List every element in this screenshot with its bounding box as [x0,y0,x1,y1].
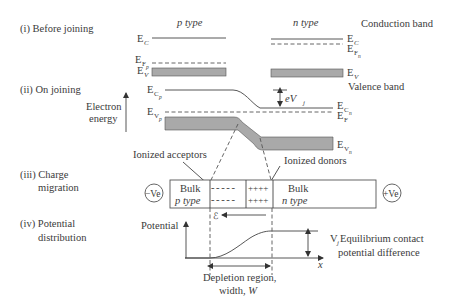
svg-text:E: E [147,106,153,117]
negative-terminal-label: −Ve [145,189,160,199]
vj-label: V j Equilibrium contact [330,233,424,247]
electric-field-symbol: ℰ [213,211,219,221]
p-ecp-label: E C p [147,84,162,100]
svg-text:E: E [135,54,141,65]
n-valence-band [271,69,343,77]
valence-band-label: Valence band [348,81,405,92]
svg-text:E: E [147,84,153,95]
acceptor-row-1: - - - - - [211,182,235,193]
n-type-header: n type [293,17,319,28]
depletion-label-line1: Depletion region, [203,272,276,283]
bulk-p-label-line2: p type [174,195,201,206]
electron-energy-label-line1: Electron [86,101,122,112]
step-label-potential-line2: distribution [38,232,87,243]
barrier-evj-label: eV j [285,93,305,107]
svg-text:eV: eV [285,93,298,104]
svg-text:F: F [344,116,348,124]
ionized-acceptors-label: Ionized acceptors [133,149,207,160]
svg-text:width, W: width, W [219,285,258,296]
n-ev-label: E V [347,67,359,81]
conduction-band-label: Conduction band [361,18,434,29]
svg-text:Equilibrium contact: Equilibrium contact [340,233,424,244]
svg-text:E: E [337,110,343,121]
electron-energy-label-line2: energy [89,113,118,124]
step-label-potential-line1: (iv) Potential [20,218,75,230]
x-axis-label: x [317,259,323,270]
potential-axis-label: Potential [141,220,178,231]
pn-junction-diagram: (i) Before joining (ii) On joining (iii)… [0,0,455,307]
svg-text:E: E [137,33,143,44]
svg-text:C: C [354,39,359,47]
step-label-on-joining: (ii) On joining [20,84,81,96]
depletion-label-line2: width, W [219,285,258,296]
conduction-band-bent [165,90,333,108]
acceptor-row-2: - - - - - [211,194,235,205]
svg-text:E: E [347,43,353,54]
svg-text:E: E [347,67,353,78]
svg-text:p: p [158,94,162,100]
positive-terminal-label: +Ve [383,189,398,199]
svg-text:V: V [144,71,149,79]
vj-label-line2: potential difference [338,247,420,258]
svg-text:n: n [349,110,352,116]
valence-band-bent [165,117,333,150]
donor-row-1: ++++ [248,183,268,193]
step-label-charge-migration-line2: migration [38,182,80,193]
p-type-header: p type [176,17,203,28]
svg-text:j: j [302,99,305,107]
svg-text:p: p [158,116,162,122]
n-evn-label: E V n [337,139,352,155]
step-label-charge-migration-line1: (iii) Charge [20,169,69,181]
p-valence-band [152,68,226,76]
p-evp-label: E V p [147,106,162,122]
step-label-before-joining: (i) Before joining [20,23,94,35]
potential-curve [185,231,318,258]
p-ec-label: E C [137,33,149,47]
svg-text:j: j [336,239,339,247]
bulk-n-label-line2: n type [282,195,308,206]
svg-text:n: n [349,149,352,155]
svg-text:p: p [145,64,149,70]
svg-text:C: C [144,39,149,47]
bulk-n-label-line1: Bulk [288,183,309,194]
bulk-p-label-line1: Bulk [180,183,201,194]
svg-text:n: n [358,53,361,59]
depletion-left-projection [211,124,238,180]
donor-row-2: ++++ [248,195,268,205]
svg-text:E: E [337,139,343,150]
ionized-donors-label: Ionized donors [284,155,347,166]
svg-text:E: E [137,65,143,76]
svg-text:V: V [354,73,359,81]
